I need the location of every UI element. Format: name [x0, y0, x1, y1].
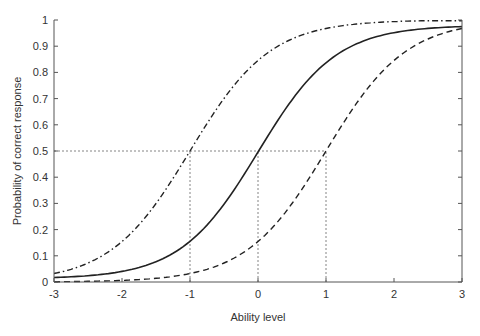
- y-tick-label: 0.1: [33, 250, 48, 262]
- curve-dashdot: [54, 21, 462, 274]
- y-tick-label: 0.7: [33, 93, 48, 105]
- x-axis-label: Ability level: [230, 311, 285, 323]
- x-tick-label: 3: [459, 288, 465, 300]
- y-tick-label: 0.6: [33, 119, 48, 131]
- x-tick-label: 0: [255, 288, 261, 300]
- curve-solid: [54, 27, 462, 278]
- y-tick-label: 0: [42, 276, 48, 288]
- y-tick-label: 0.8: [33, 66, 48, 78]
- y-tick-label: 0.2: [33, 224, 48, 236]
- y-tick-label: 0.3: [33, 197, 48, 209]
- x-tick-label: -2: [117, 288, 127, 300]
- y-tick-label: 0.4: [33, 171, 48, 183]
- reference-lines: [54, 151, 326, 282]
- y-tick-label: 0.5: [33, 145, 48, 157]
- x-ticks: -3-2-10123: [49, 278, 465, 300]
- y-tick-label: 0.9: [33, 40, 48, 52]
- x-tick-label: 1: [323, 288, 329, 300]
- curve-dashed: [54, 29, 462, 282]
- x-tick-label: 2: [391, 288, 397, 300]
- x-tick-label: -3: [49, 288, 59, 300]
- icc-chart: 00.10.20.30.40.50.60.70.80.91 -3-2-10123…: [0, 0, 480, 336]
- x-tick-label: -1: [185, 288, 195, 300]
- y-axis-label: Probability of correct response: [11, 77, 23, 226]
- y-tick-label: 1: [42, 14, 48, 26]
